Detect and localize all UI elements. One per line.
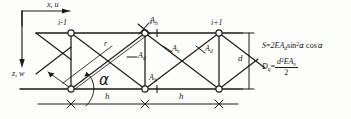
- diagonal-u0: [36, 47, 71, 74]
- label-area-chord-bottom-sub: h: [154, 77, 157, 83]
- node-circle-i-plus-1: [216, 30, 222, 36]
- formula-D-fraction: d2EAs 2: [275, 57, 298, 77]
- formula-D-denominator: 2: [275, 68, 298, 77]
- z-axis-label: z, w: [12, 70, 24, 78]
- node-circle-bottom-right: [216, 86, 222, 92]
- label-bay-h-2: h: [179, 92, 184, 101]
- z-axis-arrowhead: [19, 59, 24, 68]
- label-area-vertical-sub: v: [177, 48, 179, 54]
- formula-bending-stiffness: Dq= d2EAs 2: [262, 57, 298, 77]
- formula-D-num-sub: s: [294, 61, 296, 67]
- label-area-vertical: Av: [172, 45, 179, 54]
- node-force-arrowhead: [48, 72, 55, 77]
- angle-alpha-arc-lower: [86, 89, 94, 106]
- formula-shear-stiffness: S=2EAdsin2α cosα: [262, 42, 323, 51]
- diagonal-d0: [36, 33, 71, 60]
- node-circle-i-minus-1: [68, 30, 74, 36]
- diagonal-u3: [219, 59, 258, 89]
- formula-S-tail-arg: α: [318, 41, 323, 50]
- formula-D-numerator: d2EAs: [275, 57, 298, 68]
- formula-S-trig: sin: [287, 41, 296, 50]
- x-axis-label: x, u: [47, 1, 59, 9]
- label-area-chord-top-sub: h: [155, 20, 158, 26]
- label-area-diagonal-sub: d: [143, 55, 146, 61]
- av-leader-tick: [163, 46, 172, 52]
- truss-drawing-canvas: [0, 0, 351, 119]
- label-bay-h-1: h: [105, 92, 110, 101]
- node-label-i-minus-1: i-1: [58, 19, 67, 27]
- label-area-diagonal: Ad: [138, 52, 146, 61]
- node-label-i-plus-1: i+1: [211, 19, 223, 27]
- label-area-chord-top: Ah: [150, 17, 158, 26]
- formula-S-tail: cos: [306, 41, 317, 50]
- label-depth-d: d: [238, 54, 243, 63]
- formula-D-num-rest: EA: [284, 57, 294, 66]
- diagonal-u1-pair: [75, 35, 148, 90]
- node-circle-bottom-center: [142, 86, 148, 92]
- label-diagonal-length-r: r: [104, 40, 107, 48]
- label-area-diagonal-right-sub: d: [210, 48, 213, 54]
- x-axis-arrowhead: [62, 8, 70, 13]
- label-angle-alpha: α: [99, 73, 109, 88]
- label-area-diagonal-right: Ad: [205, 45, 213, 54]
- truss-diagram-figure: x, u z, w i-1 i i+1 Ah Ah Av Ad Ad r α h…: [0, 0, 351, 119]
- formula-S-rhs: 2EA: [271, 41, 285, 50]
- node-circle-i: [142, 30, 148, 36]
- label-area-chord-bottom: Ah: [149, 74, 157, 83]
